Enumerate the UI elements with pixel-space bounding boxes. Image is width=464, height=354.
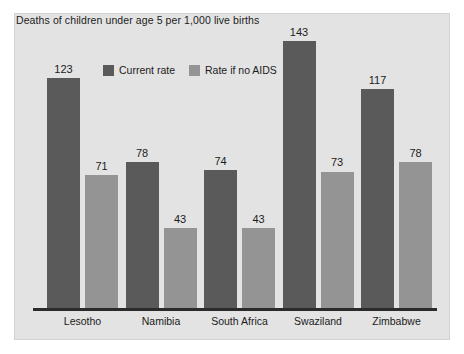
- bar: [126, 162, 159, 308]
- x-axis-line: [33, 308, 437, 311]
- category-label-zimbabwe: Zimbabwe: [345, 315, 448, 327]
- bar-value-label: 78: [126, 147, 159, 159]
- bar-value-label: 73: [321, 156, 354, 168]
- bar: [283, 41, 316, 308]
- bar-value-label: 74: [204, 155, 237, 167]
- bar: [47, 78, 80, 308]
- bar-value-label: 143: [283, 26, 316, 38]
- bar: [85, 175, 118, 308]
- bar-value-label: 43: [164, 213, 197, 225]
- bar: [399, 162, 432, 308]
- bar: [361, 89, 394, 308]
- bar-value-label: 123: [47, 63, 80, 75]
- bar: [204, 170, 237, 308]
- bar-value-label: 71: [85, 160, 118, 172]
- bar: [164, 228, 197, 308]
- plot-area: 12371Lesotho7843Namibia7443South Africa1…: [14, 13, 450, 340]
- figure-container: Deaths of children under age 5 per 1,000…: [0, 0, 464, 354]
- bar-value-label: 78: [399, 147, 432, 159]
- bar: [242, 228, 275, 308]
- bar: [321, 172, 354, 309]
- bar-value-label: 43: [242, 213, 275, 225]
- bar-value-label: 117: [361, 74, 394, 86]
